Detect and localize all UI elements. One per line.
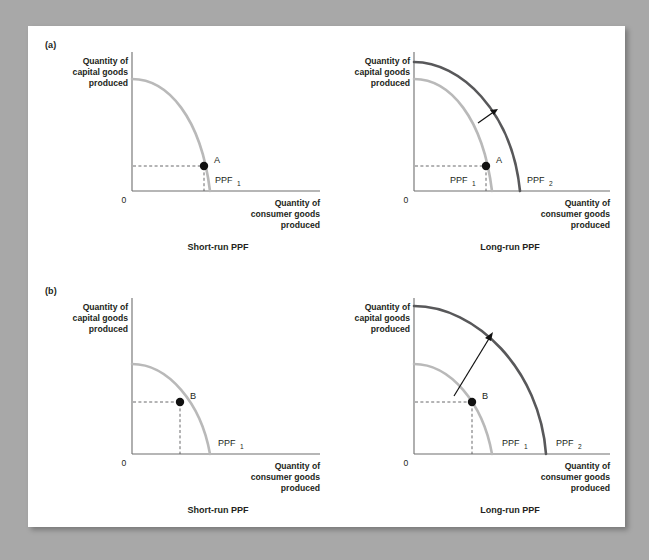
y-axis-label-line1: Quantity of: [83, 56, 128, 66]
ppf1-label: PPF: [502, 438, 520, 448]
point-marker-b: [176, 398, 184, 406]
ppf2-curve: [414, 306, 546, 454]
chart-b-short-run: Quantity of capital goods produced 0 B P…: [28, 274, 326, 527]
y-axis-label-line1: Quantity of: [365, 56, 410, 66]
caption-long-run-a: Long-run PPF: [480, 242, 540, 252]
origin-label: 0: [122, 458, 127, 468]
origin-label: 0: [404, 195, 409, 205]
x-axis-label-line1: Quantity of: [565, 198, 610, 208]
ppf1-label-sub: 1: [237, 180, 241, 187]
point-label-b: B: [190, 391, 196, 401]
chart-b-long-run: Quantity of capital goods produced 0 B P…: [324, 274, 622, 527]
origin-label: 0: [404, 458, 409, 468]
point-label-a: A: [214, 155, 221, 165]
y-axis-label-line2: capital goods: [73, 313, 129, 323]
ppf2-label: PPF: [556, 438, 574, 448]
x-axis-label-line1: Quantity of: [565, 461, 610, 471]
origin-label: 0: [122, 195, 127, 205]
y-axis-label-line1: Quantity of: [83, 302, 128, 312]
panel-row-a: (a) Quantity of capital goods produced 0: [28, 26, 625, 276]
chart-b-short-run-svg: Quantity of capital goods produced 0 B P…: [28, 274, 326, 527]
figure-card: (a) Quantity of capital goods produced 0: [28, 26, 625, 527]
y-axis-label-line2: capital goods: [355, 313, 411, 323]
y-axis-label-line1: Quantity of: [365, 302, 410, 312]
caption-short-run-b: Short-run PPF: [188, 505, 249, 515]
y-axis-label-line2: capital goods: [73, 67, 129, 77]
x-axis-label-line3: produced: [571, 220, 610, 230]
x-axis-label-line2: consumer goods: [541, 472, 610, 482]
chart-a-long-run-svg: Quantity of capital goods produced 0 A P…: [324, 26, 622, 276]
x-axis-label-line2: consumer goods: [251, 209, 320, 219]
chart-a-short-run-svg: Quantity of capital goods produced 0 A P…: [28, 26, 326, 276]
x-axis-label-line3: produced: [571, 483, 610, 493]
ppf1-label-sub: 1: [524, 443, 528, 450]
caption-short-run-a: Short-run PPF: [188, 242, 249, 252]
chart-a-long-run: Quantity of capital goods produced 0 A P…: [324, 26, 622, 276]
caption-long-run-b: Long-run PPF: [480, 505, 540, 515]
ppf1-curve: [414, 364, 492, 454]
x-axis-label-line1: Quantity of: [275, 461, 320, 471]
point-label-a: A: [496, 155, 503, 165]
point-marker-a: [482, 162, 490, 170]
ppf1-label-sub: 1: [472, 180, 476, 187]
chart-a-short-run: Quantity of capital goods produced 0 A P…: [28, 26, 326, 276]
ppf1-label: PPF: [450, 175, 468, 185]
shift-arrow-line: [454, 337, 490, 396]
x-axis-label-line2: consumer goods: [251, 472, 320, 482]
y-axis-label-line3: produced: [89, 78, 128, 88]
y-axis-label-line2: capital goods: [355, 67, 411, 77]
ppf1-curve: [132, 364, 210, 454]
x-axis-label-line3: produced: [281, 220, 320, 230]
chart-b-long-run-svg: Quantity of capital goods produced 0 B P…: [324, 274, 622, 527]
y-axis-label-line3: produced: [89, 324, 128, 334]
y-axis-label-line3: produced: [371, 78, 410, 88]
panel-row-b: (b) Quantity of capital goods produced 0…: [28, 274, 625, 527]
x-axis-label-line2: consumer goods: [541, 209, 610, 219]
ppf2-label-sub: 2: [578, 443, 582, 450]
y-axis-label-line3: produced: [371, 324, 410, 334]
ppf2-label-sub: 2: [549, 180, 553, 187]
point-label-b: B: [482, 391, 488, 401]
point-marker-a: [200, 162, 208, 170]
ppf1-curve: [132, 79, 210, 191]
ppf1-label-sub: 1: [240, 443, 244, 450]
x-axis-label-line1: Quantity of: [275, 198, 320, 208]
ppf2-label: PPF: [527, 175, 545, 185]
point-marker-b: [468, 398, 476, 406]
ppf1-label: PPF: [218, 438, 236, 448]
ppf1-label: PPF: [215, 175, 233, 185]
x-axis-label-line3: produced: [281, 483, 320, 493]
